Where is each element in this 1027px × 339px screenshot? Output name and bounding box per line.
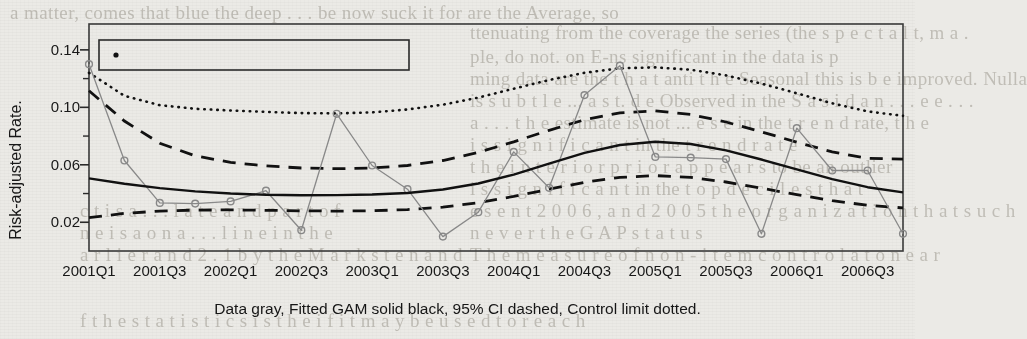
- figure-caption: Data gray, Fitted GAM solid black, 95% C…: [0, 300, 915, 318]
- legend-dot-marker: [113, 52, 118, 57]
- series-ci-upper: [89, 91, 903, 169]
- legend-box: [99, 40, 409, 70]
- series-control-limit: [89, 67, 903, 116]
- series-fitted-gam: [89, 142, 903, 196]
